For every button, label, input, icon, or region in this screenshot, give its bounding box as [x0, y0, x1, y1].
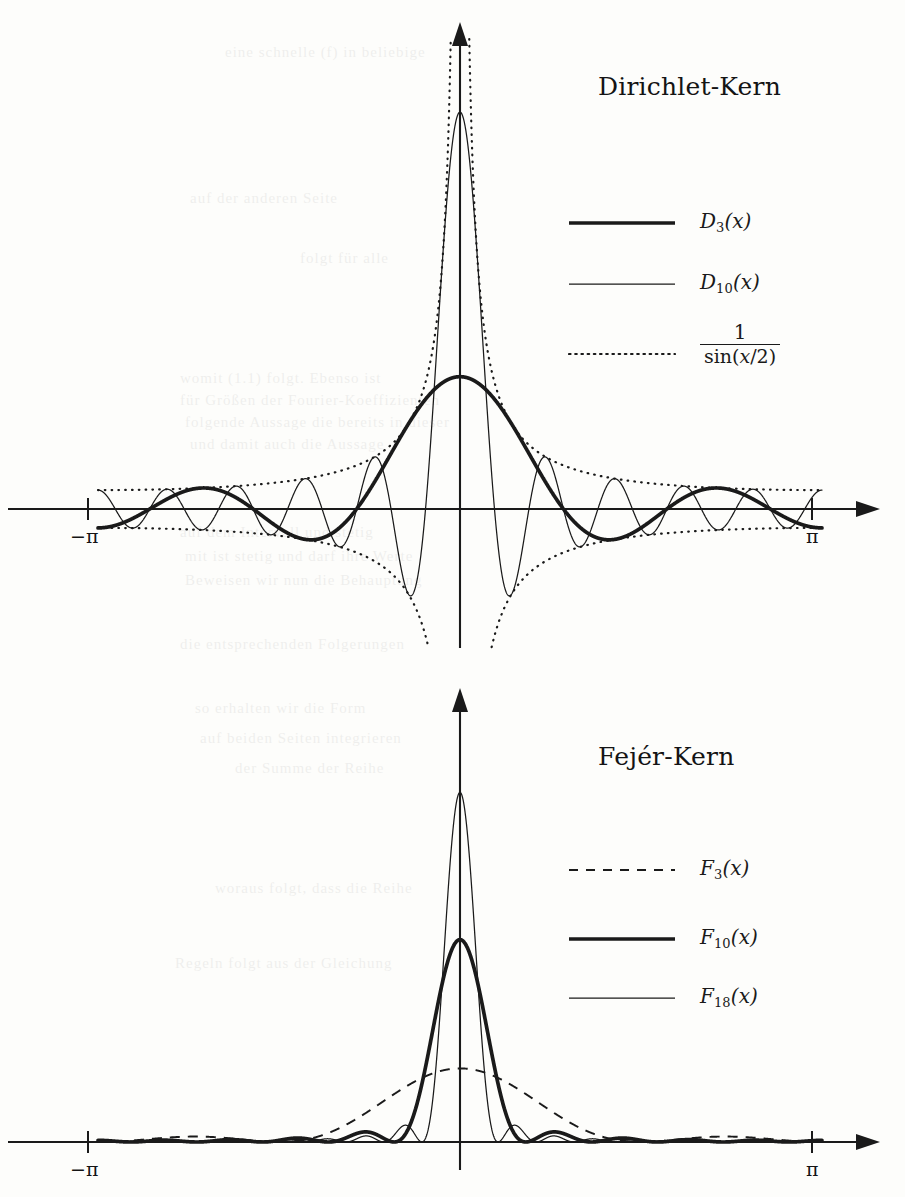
legend-swatch-solid-thin-f [568, 988, 676, 1008]
legend-item-envelope[interactable]: 1 sin(x/2) [568, 322, 780, 368]
y-axis-arrow-fejer [452, 688, 468, 712]
fraction-denominator: sin(x/2) [700, 345, 780, 368]
legend-label-f18: F18(x) [700, 986, 758, 1009]
legend-item-d3[interactable]: D3(x) [568, 211, 751, 234]
envelope-positive-right [469, 39, 822, 490]
x-axis-arrow-dirichlet [856, 501, 880, 517]
legend-swatch-solid-thin [568, 274, 676, 294]
legend-item-f3[interactable]: F3(x) [568, 858, 749, 881]
y-axis-arrow-dirichlet [452, 22, 468, 46]
legend-item-f18[interactable]: F18(x) [568, 986, 758, 1009]
x-tick-label-pi-fejer: π [806, 1158, 819, 1180]
legend-swatch-solid-thick-f [568, 929, 676, 949]
figure-fejer-kernel: Fejér-Kern F3(x) [0, 650, 905, 1197]
chart-title-fejer: Fejér-Kern [598, 742, 735, 771]
legend-label-envelope: 1 sin(x/2) [700, 322, 780, 368]
envelope-positive-left [98, 39, 451, 490]
legend-item-f10[interactable]: F10(x) [568, 927, 758, 950]
figure-page: eine schnelle (f) in beliebigeauf der an… [0, 0, 905, 1197]
legend-item-d10[interactable]: D10(x) [568, 272, 760, 295]
figure-dirichlet-kernel: Dirichlet-Kern −π π D3(x) [0, 0, 905, 650]
x-tick-label-minus-pi-fejer: −π [70, 1158, 98, 1180]
legend-label-f3: F3(x) [700, 858, 749, 881]
envelope-negative-left [98, 528, 428, 647]
legend-swatch-dashed [568, 860, 676, 880]
legend-label-f10: F10(x) [700, 927, 758, 950]
x-axis-arrow-fejer [856, 1134, 880, 1150]
x-tick-label-pi-dirichlet: π [806, 525, 819, 547]
fraction-one-over-sin: 1 sin(x/2) [700, 322, 780, 368]
chart-title-dirichlet: Dirichlet-Kern [598, 72, 781, 101]
legend-swatch-solid-thick [568, 213, 676, 233]
fejer-plot-canvas [0, 650, 905, 1197]
legend-label-d3: D3(x) [700, 211, 751, 234]
x-tick-label-minus-pi-dirichlet: −π [70, 525, 98, 547]
legend-label-d10: D10(x) [700, 272, 760, 295]
legend-swatch-dotted [568, 344, 676, 364]
envelope-negative-right [492, 528, 822, 647]
